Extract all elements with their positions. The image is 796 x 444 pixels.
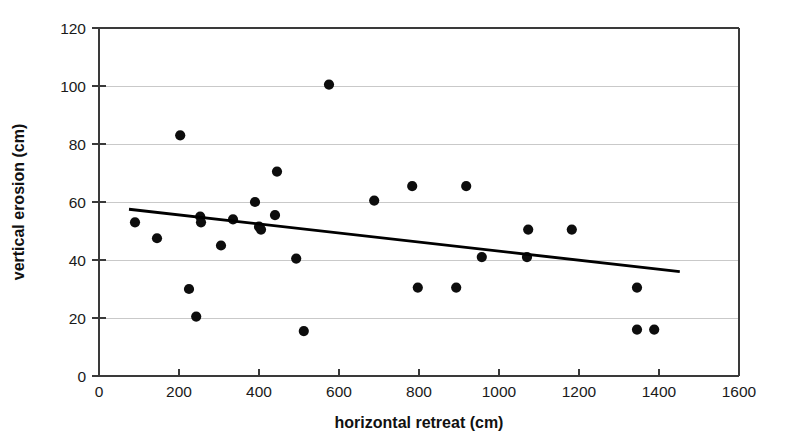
data-point <box>451 282 461 292</box>
y-tick-label-60: 60 <box>69 194 87 211</box>
data-point <box>175 130 185 140</box>
data-point <box>270 210 280 220</box>
x-tick-label-400: 400 <box>246 383 272 400</box>
x-tick-label-600: 600 <box>326 383 352 400</box>
x-tick-label-0: 0 <box>95 383 104 400</box>
data-point <box>413 282 423 292</box>
x-tick-label-1400: 1400 <box>642 383 677 400</box>
data-point <box>632 325 642 335</box>
data-point <box>461 181 471 191</box>
x-tick-label-1200: 1200 <box>562 383 597 400</box>
x-tick-label-200: 200 <box>166 383 192 400</box>
data-point <box>407 181 417 191</box>
y-tick-label-0: 0 <box>77 368 86 385</box>
trend-line <box>129 209 680 271</box>
y-tick-label-40: 40 <box>69 252 87 269</box>
data-point <box>632 282 642 292</box>
y-tick-label-80: 80 <box>69 136 87 153</box>
data-point <box>191 311 201 321</box>
x-tick-label-800: 800 <box>406 383 432 400</box>
data-point <box>184 284 194 294</box>
data-point <box>299 326 309 336</box>
data-point <box>152 233 162 243</box>
y-tick-label-group: 020406080100120 <box>60 20 86 385</box>
data-point <box>272 166 282 176</box>
data-point <box>369 195 379 205</box>
scatter-plot-figure: 02004006008001000120014001600 0204060801… <box>0 0 796 444</box>
data-point <box>216 240 226 250</box>
plot-canvas: 02004006008001000120014001600 0204060801… <box>0 0 796 444</box>
data-point <box>477 252 487 262</box>
data-point-group <box>130 79 659 336</box>
data-point <box>649 325 659 335</box>
data-point <box>567 224 577 234</box>
x-tick-label-1600: 1600 <box>722 383 757 400</box>
x-tickmark-group <box>99 369 739 376</box>
y-tick-label-120: 120 <box>60 20 86 37</box>
data-point <box>291 253 301 263</box>
data-point <box>523 224 533 234</box>
data-point <box>250 197 260 207</box>
y-tick-label-20: 20 <box>69 310 87 327</box>
y-axis-title: vertical erosion (cm) <box>10 124 27 281</box>
data-point <box>130 217 140 227</box>
data-point <box>324 79 334 89</box>
x-axis-title: horizontal retreat (cm) <box>335 414 504 431</box>
y-tick-label-100: 100 <box>60 78 86 95</box>
x-tick-label-1000: 1000 <box>482 383 517 400</box>
x-tick-label-group: 02004006008001000120014001600 <box>95 383 757 400</box>
